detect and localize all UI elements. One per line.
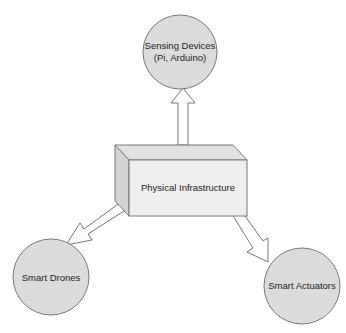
sensing-label-line2: (Pi, Arduino) — [154, 52, 206, 63]
actuators-label: Smart Actuators — [268, 280, 336, 291]
cube-top-face — [115, 145, 247, 160]
center-label: Physical Infrastructure — [141, 182, 235, 193]
arrow-to-drones — [66, 202, 127, 245]
diagram-canvas: Physical Infrastructure Sensing Devices … — [0, 0, 346, 333]
arrow-to-sensing — [171, 88, 195, 145]
physical-infrastructure-cube — [115, 145, 247, 216]
drones-label: Smart Drones — [22, 272, 81, 283]
sensing-label-line1: Sensing Devices — [145, 40, 216, 51]
arrow-to-actuators — [232, 209, 268, 262]
